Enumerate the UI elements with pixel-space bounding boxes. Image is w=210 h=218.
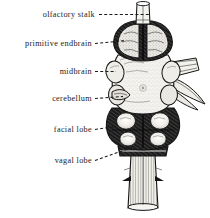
vagal-lobe-left [120,132,136,146]
label-midbrain: midbrain [60,67,92,76]
label-vagal-lobe: vagal lobe [55,156,92,165]
label-cerebellum: cerebellum [52,94,92,103]
facial-lobe-right [151,113,170,129]
label-facial-lobe: facial lobe [54,125,92,134]
label-primitive-endbrain: primitive endbrain [25,39,92,48]
label-olfactory-stalk: olfactory stalk [43,10,96,19]
fish-brain-diagram: olfactory stalk primitive endbrain midbr… [0,0,210,218]
vagal-lobe-right [150,132,166,146]
facial-lobe-left [117,113,136,129]
structure-olfactory-stalk [136,2,150,25]
figure-background [0,0,210,218]
structure-midbrain [112,55,174,114]
anatomical-figure: olfactory stalk primitive endbrain midbr… [0,0,210,218]
